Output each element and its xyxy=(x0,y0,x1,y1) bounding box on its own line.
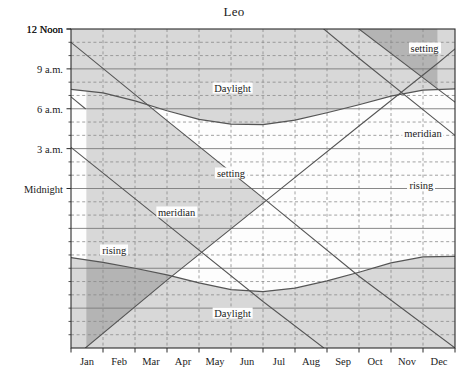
y-axis-tick-label: 9 a.m. xyxy=(0,63,63,74)
chart-annotation-label: meridian xyxy=(156,207,197,218)
y-axis-tick-label: 6 a.m. xyxy=(0,103,63,114)
chart-annotation-label: meridian xyxy=(402,127,443,138)
chart-annotation-label: rising xyxy=(407,179,435,190)
y-axis-tick-label: 3 a.m. xyxy=(0,143,63,154)
y-axis-tick-label: 12 Noon xyxy=(0,24,63,35)
rise-set-meridian-plot xyxy=(0,0,468,388)
y-axis-tick-label: Midnight xyxy=(0,183,63,194)
chart-annotation-label: setting xyxy=(215,168,247,179)
x-axis-tick-label: Dec xyxy=(417,356,461,367)
chart-annotation-label: Daylight xyxy=(212,83,253,94)
chart-container: Leo 12 Noon9 a.m.6 a.m.3 a.m.Midnight9 p… xyxy=(0,0,468,388)
chart-annotation-label: Daylight xyxy=(212,308,253,319)
chart-annotation-label: setting xyxy=(409,43,441,54)
chart-annotation-label: rising xyxy=(100,244,128,255)
